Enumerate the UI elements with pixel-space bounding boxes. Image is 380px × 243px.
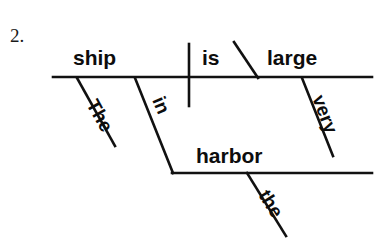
sentence-diagram-canvas: 2. ship is large The in very harbor the bbox=[0, 0, 380, 243]
diagram-word-is: is bbox=[202, 46, 220, 69]
diagram-word-the-subject: The bbox=[83, 96, 118, 136]
sentence-diagram: 2. ship is large The in very harbor the bbox=[0, 0, 380, 243]
exercise-number: 2. bbox=[10, 25, 24, 46]
diagram-word-ship: ship bbox=[73, 46, 116, 69]
modifier-line-in-preposition bbox=[135, 78, 173, 173]
diagram-word-very: very bbox=[308, 92, 342, 136]
predicate-adjective-divider bbox=[234, 42, 258, 78]
diagram-word-in: in bbox=[148, 93, 174, 117]
diagram-word-harbor: harbor bbox=[196, 144, 263, 167]
diagram-word-large: large bbox=[267, 46, 317, 69]
